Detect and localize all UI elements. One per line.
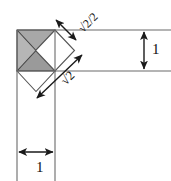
- lower-diamond-shape: [17, 71, 55, 92]
- bottom-dimension-label: 1: [36, 160, 44, 175]
- right-dimension-label: 1: [152, 42, 160, 57]
- lower-diamond-half: [17, 71, 55, 92]
